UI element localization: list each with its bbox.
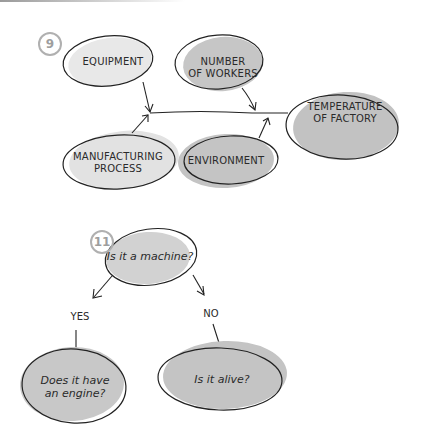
- node-workers-line2: OF WORKERS: [188, 68, 258, 80]
- node-root-label: Is it a machine?: [107, 250, 194, 263]
- node-temperature-shape: [284, 88, 401, 163]
- node-workers-line1: NUMBER: [188, 56, 258, 68]
- node-manufacturing-process: MANUFACTURING PROCESS: [73, 151, 163, 175]
- diagram-9-number: 9: [38, 32, 62, 56]
- node-equipment-label: EQUIPMENT: [83, 56, 144, 67]
- branch-yes-label: YES: [71, 311, 90, 323]
- node-equipment: EQUIPMENT: [83, 56, 144, 68]
- node-no-label: Is it alive?: [194, 373, 249, 386]
- node-temperature-of-factory: TEMPERATURE OF FACTORY: [308, 101, 383, 125]
- node-temperature-line1: TEMPERATURE: [308, 101, 383, 113]
- node-manufacturing-line2: PROCESS: [73, 163, 163, 175]
- node-does-it-have-an-engine: Does it have an engine?: [40, 374, 109, 400]
- node-is-it-a-machine: Is it a machine?: [107, 250, 194, 263]
- node-manufacturing-line1: MANUFACTURING: [73, 151, 163, 163]
- connectors-9: [132, 82, 288, 138]
- node-temperature-line2: OF FACTORY: [308, 113, 383, 125]
- branch-no-label: NO: [203, 308, 218, 320]
- node-number-of-workers: NUMBER OF WORKERS: [188, 56, 258, 80]
- node-environment-label: ENVIRONMENT: [188, 155, 265, 166]
- node-is-it-alive: Is it alive?: [194, 373, 249, 386]
- node-yes-line2: an engine?: [40, 387, 109, 400]
- node-yes-line1: Does it have: [40, 374, 109, 387]
- node-environment: ENVIRONMENT: [188, 155, 265, 167]
